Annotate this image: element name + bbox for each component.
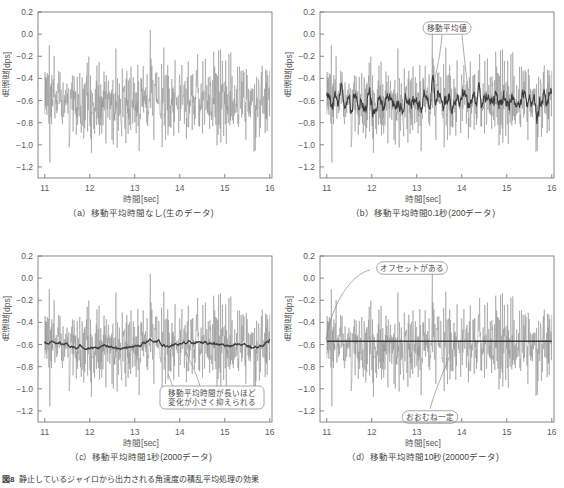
svg-text:−1.2: −1.2 (16, 162, 33, 172)
svg-text:−0.2: −0.2 (16, 51, 33, 61)
x-axis-label-c: 時間[sec] (0, 436, 282, 448)
plot-svg-b: 移動平均値0.20.0−0.2−0.4−0.6−0.8−1.0−1.211121… (282, 0, 564, 200)
svg-text:−1.0: −1.0 (298, 140, 315, 150)
subplot-panel-c: 移動平均時間が長いほど変化が小さく抑えられる0.20.0−0.2−0.4−0.6… (0, 244, 282, 488)
svg-text:−0.8: −0.8 (16, 362, 33, 372)
svg-text:−0.8: −0.8 (298, 362, 315, 372)
svg-text:0.2: 0.2 (21, 251, 33, 261)
subplot-caption-b: （b）移動平均時間0.1秒(200データ) (282, 206, 564, 218)
svg-text:−1.0: −1.0 (16, 140, 33, 150)
plot-area-b: 移動平均値0.20.0−0.2−0.4−0.6−0.8−1.0−1.211121… (282, 0, 564, 200)
svg-text:−0.2: −0.2 (16, 295, 33, 305)
plot-area-d: オフセットがあるおおむね一定0.20.0−0.2−0.4−0.6−0.8−1.0… (282, 244, 564, 444)
x-axis-label-d: 時間[sec] (282, 436, 564, 448)
svg-text:−1.0: −1.0 (298, 384, 315, 394)
svg-text:−0.4: −0.4 (298, 73, 315, 83)
svg-text:−1.2: −1.2 (298, 162, 315, 172)
svg-text:0.2: 0.2 (303, 7, 315, 17)
svg-text:−0.8: −0.8 (16, 118, 33, 128)
svg-text:−0.6: −0.6 (298, 96, 315, 106)
figure-caption-number: 図8 (2, 475, 14, 484)
svg-text:0.0: 0.0 (303, 273, 315, 283)
svg-text:0.2: 0.2 (21, 7, 33, 17)
subplot-label-c: （c） (70, 452, 92, 462)
svg-text:0.2: 0.2 (303, 251, 315, 261)
plot-area-a: 0.20.0−0.2−0.4−0.6−0.8−1.0−1.21112131415… (0, 0, 282, 200)
svg-text:変化が小さく抑えられる: 変化が小さく抑えられる (168, 397, 256, 407)
svg-text:−0.2: −0.2 (298, 295, 315, 305)
svg-text:0.0: 0.0 (303, 29, 315, 39)
y-axis-label-c: 角速度[dps] (2, 296, 16, 341)
figure-caption-text: 静止しているジャイロから出力される角速度の積乱平均処理の効果 (19, 475, 259, 484)
x-axis-label-b: 時間[sec] (282, 192, 564, 204)
svg-text:−0.2: −0.2 (298, 51, 315, 61)
figure-container: 0.20.0−0.2−0.4−0.6−0.8−1.0−1.21112131415… (0, 0, 564, 488)
figure-caption: 図8 静止しているジャイロから出力される角速度の積乱平均処理の効果 (2, 474, 402, 485)
subplot-caption-text-a: 移動平均時間なし(生のデータ) (91, 208, 214, 218)
plot-svg-d: オフセットがあるおおむね一定0.20.0−0.2−0.4−0.6−0.8−1.0… (282, 244, 564, 444)
subplot-panel-b: 移動平均値0.20.0−0.2−0.4−0.6−0.8−1.0−1.211121… (282, 0, 564, 244)
subplot-caption-text-c: 移動平均時間1秒(2000データ) (92, 452, 211, 462)
x-axis-label-a: 時間[sec] (0, 192, 282, 204)
subplot-caption-text-b: 移動平均時間0.1秒(200データ) (374, 208, 496, 218)
plot-svg-c: 移動平均時間が長いほど変化が小さく抑えられる0.20.0−0.2−0.4−0.6… (0, 244, 282, 444)
svg-text:−0.6: −0.6 (16, 96, 33, 106)
svg-text:−0.6: −0.6 (16, 340, 33, 350)
subplot-label-a: （a） (68, 208, 91, 218)
subplot-caption-c: （c）移動平均時間1秒(2000データ) (0, 450, 282, 462)
subplot-panel-a: 0.20.0−0.2−0.4−0.6−0.8−1.0−1.21112131415… (0, 0, 282, 244)
subplot-caption-d: （d）移動平均時間10秒(20000データ) (282, 450, 564, 462)
subplot-label-d: （d） (347, 452, 370, 462)
svg-text:0.0: 0.0 (21, 29, 33, 39)
svg-text:移動平均時間が長いほど: 移動平均時間が長いほど (168, 388, 256, 398)
plot-svg-a: 0.20.0−0.2−0.4−0.6−0.8−1.0−1.21112131415… (0, 0, 282, 200)
y-axis-label-b: 角速度[dps] (284, 52, 298, 97)
svg-text:−1.2: −1.2 (16, 406, 33, 416)
svg-text:−0.6: −0.6 (298, 340, 315, 350)
subplot-label-b: （b） (351, 208, 374, 218)
svg-text:オフセットがある: オフセットがある (380, 263, 444, 273)
svg-text:−1.2: −1.2 (298, 406, 315, 416)
subplot-caption-a: （a）移動平均時間なし(生のデータ) (0, 206, 282, 218)
svg-text:−1.0: −1.0 (16, 384, 33, 394)
svg-text:移動平均値: 移動平均値 (427, 23, 467, 33)
subplot-panel-d: オフセットがあるおおむね一定0.20.0−0.2−0.4−0.6−0.8−1.0… (282, 244, 564, 488)
svg-text:0.0: 0.0 (21, 273, 33, 283)
y-axis-label-a: 角速度[dps] (2, 52, 16, 97)
subplot-caption-text-d: 移動平均時間10秒(20000データ) (370, 452, 499, 462)
y-axis-label-d: 角速度[dps] (284, 296, 298, 341)
svg-text:−0.4: −0.4 (16, 73, 33, 83)
svg-text:おおむね一定: おおむね一定 (406, 412, 454, 422)
svg-text:−0.4: −0.4 (16, 317, 33, 327)
svg-text:−0.4: −0.4 (298, 317, 315, 327)
svg-text:−0.8: −0.8 (298, 118, 315, 128)
plot-area-c: 移動平均時間が長いほど変化が小さく抑えられる0.20.0−0.2−0.4−0.6… (0, 244, 282, 444)
